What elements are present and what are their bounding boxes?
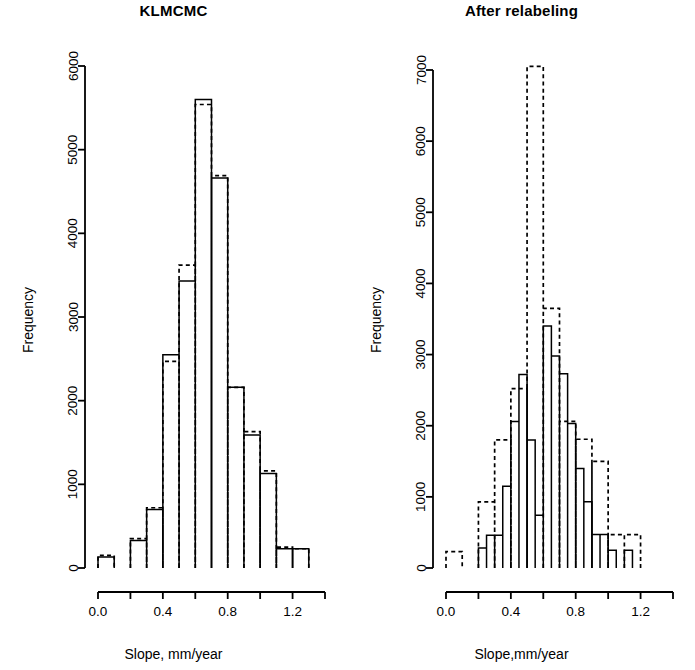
y-axis-tick-label: 0 [66,564,81,572]
plot-group: 010002000300040005000600070000.00.40.81.… [414,55,674,619]
panel-klmcmc: KLMCMC Slope, mm/year Frequency 01000200… [0,0,347,670]
y-axis-tick-label: 4000 [414,268,429,298]
y-axis-tick-label: 2000 [66,386,81,416]
y-axis-tick-label: 6000 [66,51,81,81]
histogram-bars-dashed [446,66,641,568]
chart-klmcmc: 01000200030004000500060000.00.40.81.2 [0,0,347,670]
y-axis-tick-label: 2000 [414,411,429,441]
y-axis-tick-label: 1000 [414,482,429,512]
chart-after-relabeling: 010002000300040005000600070000.00.40.81.… [348,0,695,670]
y-axis-tick-label: 5000 [66,135,81,165]
x-axis-tick-label: 0.0 [437,604,456,619]
y-axis-tick-label: 0 [414,564,429,572]
panel-after-relabeling: After relabeling Slope,mm/year Frequency… [348,0,695,670]
x-axis-tick-label: 0.4 [501,604,520,619]
figure-container: KLMCMC Slope, mm/year Frequency 01000200… [0,0,695,670]
plot-group: 01000200030004000500060000.00.40.81.2 [66,51,326,619]
y-axis-tick-label: 1000 [66,469,81,499]
histogram-bars-dashed [98,104,309,568]
y-axis-tick-label: 4000 [66,218,81,248]
y-axis-tick-label: 5000 [414,197,429,227]
x-axis-tick-label: 0.8 [566,604,585,619]
y-axis-tick-label: 7000 [414,55,429,85]
y-axis-tick-label: 6000 [414,126,429,156]
x-axis-tick-label: 1.2 [283,604,302,619]
y-axis-tick-label: 3000 [414,340,429,370]
x-axis-tick-label: 1.2 [631,604,650,619]
histogram-bars-solid [478,326,632,568]
y-axis-tick-label: 3000 [66,302,81,332]
x-axis-tick-label: 0.8 [218,604,237,619]
x-axis-tick-label: 0.0 [89,604,108,619]
x-axis-tick-label: 0.4 [153,604,172,619]
